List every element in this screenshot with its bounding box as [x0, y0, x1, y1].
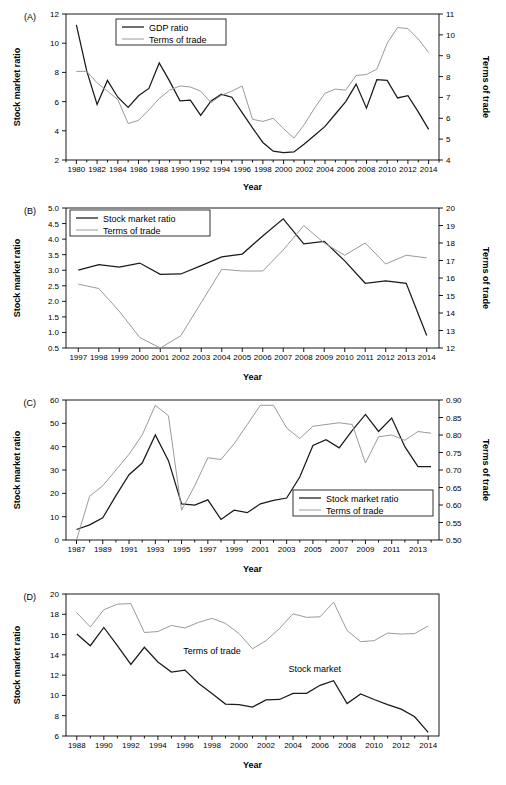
y-tick-label-left: 30 [50, 466, 59, 475]
x-tick-label: 2009 [357, 545, 375, 554]
y-tick-label-left: 1.0 [48, 328, 60, 337]
y-tick-label-right: 0.50 [446, 536, 462, 545]
y-tick-label-left: 20 [50, 590, 59, 599]
y-tick-label-left: 20 [50, 489, 59, 498]
x-tick-label: 2001 [151, 353, 169, 362]
x-tick-label: 1996 [233, 165, 251, 174]
panel-d: (D)6810121416182019881990199219941996199… [0, 580, 506, 785]
x-tick-label: 2009 [315, 353, 333, 362]
y-tick-label-right: 0.85 [446, 414, 462, 423]
x-tick-label: 2002 [257, 741, 275, 750]
legend-label-terms-of-trade: Terms of trade [149, 35, 207, 45]
legend-label-terms-of-trade: Terms of trade [103, 226, 161, 236]
x-tick-label: 2006 [311, 741, 329, 750]
x-tick-label: 2000 [275, 165, 293, 174]
y-tick-label-right: 5 [446, 135, 451, 144]
legend-label-gdp-ratio: GDP ratio [149, 23, 188, 33]
x-tick-label: 2003 [192, 353, 210, 362]
y-tick-label-left: 2.0 [48, 297, 60, 306]
chart-svg-d: (D)6810121416182019881990199219941996199… [0, 580, 506, 785]
x-tick-label: 1996 [176, 741, 194, 750]
y-tick-label-left: 5.0 [48, 204, 60, 213]
x-tick-label: 2008 [295, 353, 313, 362]
y-tick-label-right: 13 [446, 327, 455, 336]
y-tick-label-left: 0.5 [48, 344, 60, 353]
x-tick-label: 2006 [254, 353, 272, 362]
x-tick-label: 2000 [131, 353, 149, 362]
x-tick-label: 1995 [173, 545, 191, 554]
y-tick-label-right: 0.80 [446, 431, 462, 440]
x-tick-label: 1998 [203, 741, 221, 750]
x-tick-label: 2007 [274, 353, 292, 362]
x-tick-label: 1994 [149, 741, 167, 750]
chart-svg-a: (A)2468101245678910111980198219841986198… [0, 0, 506, 196]
x-tick-label: 2002 [172, 353, 190, 362]
x-tick-label: 2001 [251, 545, 269, 554]
x-tick-label: 2002 [295, 165, 313, 174]
y-tick-label-left: 3.0 [48, 266, 60, 275]
y-tick-label-left: 12 [50, 10, 59, 19]
y-tick-label-left: 18 [50, 610, 59, 619]
plot-frame [66, 594, 439, 736]
y-tick-label-left: 60 [50, 396, 59, 405]
x-tick-label: 2013 [397, 353, 415, 362]
x-tick-label: 2000 [230, 741, 248, 750]
x-axis-title: Year [243, 760, 263, 770]
y-tick-label-right: 0.60 [446, 501, 462, 510]
panel-a: (A)2468101245678910111980198219841986198… [0, 0, 506, 196]
x-tick-label: 1992 [192, 165, 210, 174]
x-tick-label: 2011 [383, 545, 401, 554]
x-tick-label: 1988 [150, 165, 168, 174]
x-tick-label: 2010 [365, 741, 383, 750]
y-tick-label-right: 18 [446, 239, 455, 248]
y-tick-label-right: 4 [446, 156, 451, 165]
x-tick-label: 1980 [67, 165, 85, 174]
inline-series-label-stock-market: Stock market [288, 664, 341, 674]
x-tick-label: 1999 [110, 353, 128, 362]
panel-b: (B)0.51.01.52.02.53.03.54.04.55.01213141… [0, 196, 506, 388]
x-tick-label: 2010 [336, 353, 354, 362]
y-axis-title-left: Stock market ratio [12, 430, 22, 509]
x-tick-label: 2008 [358, 165, 376, 174]
x-tick-label: 1990 [171, 165, 189, 174]
x-tick-label: 1998 [90, 353, 108, 362]
y-tick-label-right: 0.75 [446, 449, 462, 458]
y-tick-label-left: 4.5 [48, 220, 60, 229]
y-tick-label-right: 0.70 [446, 466, 462, 475]
x-tick-label: 1993 [146, 545, 164, 554]
x-tick-label: 1989 [94, 545, 112, 554]
series-line-terms-of-trade [77, 405, 432, 540]
x-tick-label: 2012 [392, 741, 410, 750]
panel-c: (C)01020304050600.500.550.600.650.700.75… [0, 388, 506, 580]
y-tick-label-left: 4.0 [48, 235, 60, 244]
y-tick-label-left: 10 [50, 691, 59, 700]
legend-label-stock-market-ratio: Stock market ratio [103, 214, 176, 224]
y-tick-label-left: 2.5 [48, 282, 60, 291]
figure-container: (A)2468101245678910111980198219841986198… [0, 0, 506, 785]
y-tick-label-right: 11 [446, 10, 455, 19]
panel-letter-a: (A) [24, 12, 36, 22]
y-tick-label-right: 19 [446, 222, 455, 231]
legend-label-terms-of-trade: Terms of trade [326, 506, 384, 516]
x-tick-label: 2008 [338, 741, 356, 750]
x-tick-label: 2004 [316, 165, 334, 174]
y-axis-title-right: Terms of trade [481, 247, 491, 309]
y-tick-label-right: 0.65 [446, 484, 462, 493]
x-tick-label: 1998 [254, 165, 272, 174]
legend-label-stock-market-ratio: Stock market ratio [326, 494, 399, 504]
x-tick-label: 2004 [284, 741, 302, 750]
x-axis-title: Year [243, 564, 263, 574]
x-tick-label: 2014 [419, 741, 437, 750]
panel-letter-c: (C) [24, 398, 37, 408]
y-tick-label-right: 0.90 [446, 396, 462, 405]
series-line-stock-market [77, 627, 428, 732]
x-tick-label: 1984 [109, 165, 127, 174]
y-tick-label-left: 4 [55, 127, 60, 136]
x-tick-label: 2003 [278, 545, 296, 554]
y-tick-label-left: 16 [50, 631, 59, 640]
y-tick-label-left: 2 [55, 156, 60, 165]
y-tick-label-right: 6 [446, 114, 451, 123]
y-tick-label-right: 16 [446, 274, 455, 283]
y-tick-label-left: 12 [50, 671, 59, 680]
x-tick-label: 2005 [233, 353, 251, 362]
